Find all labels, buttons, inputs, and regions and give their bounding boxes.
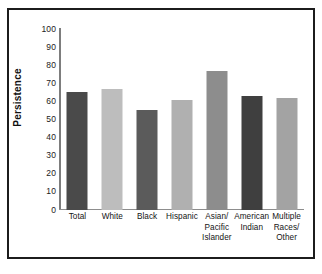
y-axis-tick-labels: 1009080706050403020100: [28, 0, 56, 274]
y-tick-label: 0: [30, 206, 56, 215]
bar-slot: [269, 29, 304, 210]
x-category-label-line: Islander: [195, 233, 238, 244]
chart-figure: Persistence 1009080706050403020100 Total…: [0, 0, 322, 274]
y-tick-label: 60: [30, 97, 56, 106]
bar-slot: [165, 29, 200, 210]
y-axis-title: Persistence: [12, 50, 23, 146]
bar-series: [60, 29, 304, 210]
bar[interactable]: [171, 100, 192, 210]
y-tick-label: 30: [30, 151, 56, 160]
bar[interactable]: [241, 96, 262, 210]
bar-slot: [199, 29, 234, 210]
bar[interactable]: [67, 92, 88, 210]
bar-slot: [234, 29, 269, 210]
bar-slot: [130, 29, 165, 210]
y-tick-label: 80: [30, 61, 56, 70]
y-tick-label: 40: [30, 133, 56, 142]
bar[interactable]: [206, 71, 227, 210]
bar-slot: [60, 29, 95, 210]
bar[interactable]: [276, 98, 297, 210]
y-tick-label: 10: [30, 187, 56, 196]
x-category-label: MultipleRaces/Other: [265, 212, 308, 244]
x-category-label-line: Races/: [265, 223, 308, 234]
y-tick-label: 20: [30, 169, 56, 178]
y-tick-label: 90: [30, 43, 56, 52]
bar[interactable]: [137, 110, 158, 210]
y-tick-label: 50: [30, 115, 56, 124]
bar[interactable]: [102, 89, 123, 210]
x-axis-category-labels: TotalWhiteBlackHispanicAsian/PacificIsla…: [60, 212, 304, 258]
y-tick-label: 70: [30, 79, 56, 88]
x-category-label-line: Multiple: [265, 212, 308, 223]
y-tick-label: 100: [30, 25, 56, 34]
bar-slot: [95, 29, 130, 210]
x-category-label-line: Other: [265, 233, 308, 244]
